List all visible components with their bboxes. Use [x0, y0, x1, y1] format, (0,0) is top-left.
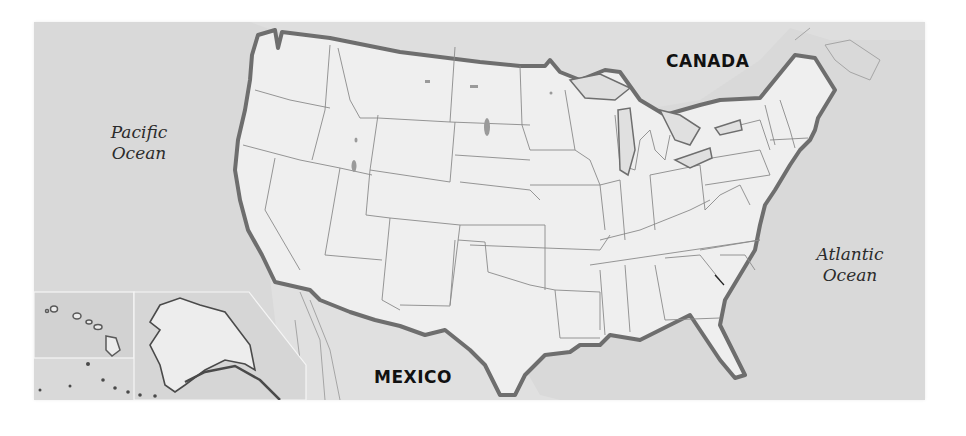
atlantic-label-line1: Atlantic: [800, 244, 900, 265]
map-canvas: [34, 22, 925, 400]
us-map: Pacific Ocean Atlantic Ocean CANADA MEXI…: [34, 22, 925, 400]
atlantic-label-line2: Ocean: [800, 265, 900, 286]
canada-label: CANADA: [666, 51, 749, 71]
pacific-ocean-label: Pacific Ocean: [94, 122, 184, 164]
mexico-label: MEXICO: [374, 367, 452, 387]
pacific-label-line1: Pacific: [94, 122, 184, 143]
pacific-label-line2: Ocean: [94, 143, 184, 164]
atlantic-ocean-label: Atlantic Ocean: [800, 244, 900, 286]
